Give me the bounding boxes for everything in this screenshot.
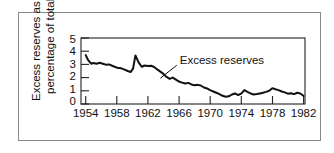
y-axis-label-line-1: Excess reserves as a <box>30 0 42 101</box>
y-axis-label: Excess reserves as a percentage of total <box>30 0 56 101</box>
x-tick-label: 1978 <box>260 107 286 119</box>
y-tick-label: 2 <box>70 70 76 82</box>
x-tick-label: 1982 <box>291 107 317 119</box>
figure-canvas: Excess reserves as a percentage of total… <box>0 0 334 153</box>
y-axis-label-line-2: percentage of total <box>44 0 56 94</box>
y-tick-labels: 5 4 3 2 1 0 <box>70 33 77 108</box>
x-tick-label: 1962 <box>135 107 161 119</box>
excess-reserves-line-chart: Excess reserves as a percentage of total… <box>0 0 334 153</box>
annotation-leader-line <box>160 65 176 78</box>
y-tick-label: 3 <box>70 58 76 70</box>
y-tick-label: 4 <box>70 45 77 57</box>
x-tick-label: 1954 <box>73 107 99 119</box>
plot-frame <box>81 38 305 104</box>
annotation-label-excess-reserves: Excess reserves <box>180 54 265 66</box>
x-tick-labels: 1954 1958 1962 1966 1970 1974 1978 1982 <box>73 107 316 119</box>
x-tick-label: 1966 <box>166 107 192 119</box>
x-tick-label: 1970 <box>197 107 223 119</box>
y-tick-label: 5 <box>70 33 76 45</box>
x-axis-ticks <box>86 96 304 104</box>
y-axis-ticks <box>81 38 89 104</box>
x-tick-label: 1958 <box>104 107 130 119</box>
y-tick-label: 0 <box>70 95 76 107</box>
y-tick-label: 1 <box>70 83 76 95</box>
x-tick-label: 1974 <box>229 107 255 119</box>
